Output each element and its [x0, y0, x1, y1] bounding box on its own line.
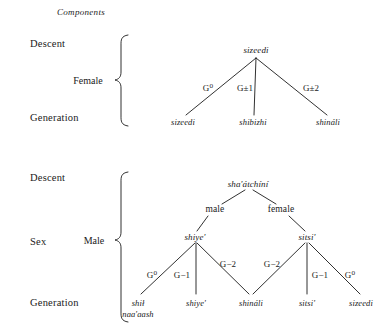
edge-label-female-g0: G⁰ [203, 84, 213, 93]
edge-m-shiye-leaf3 [197, 243, 249, 294]
edge-label-male-gminus2-right: G−2 [264, 260, 280, 269]
leaf-male-2: shiye' [186, 299, 206, 308]
edge-m-sitsi-leaf5 [309, 243, 360, 294]
edge-label-male-gminus2-left: G−2 [220, 260, 236, 269]
row-label-sex-bottom: Sex [30, 237, 46, 248]
edge-label-male-gminus1-right: G−1 [312, 271, 328, 280]
node-male-shiye: shiye' [184, 233, 205, 242]
figure-heading: Components [57, 8, 105, 17]
edge-m-female-sitsi [289, 216, 305, 231]
leaf-female-3: shináli [316, 118, 340, 127]
row-label-descent-top: Descent [30, 39, 65, 50]
edge-label-female-gpm2: G±2 [303, 84, 319, 93]
edge-label-male-g0-left: G⁰ [147, 271, 157, 280]
node-male-sex-male: male [206, 205, 225, 215]
edge-m-sitsi-leaf3 [253, 243, 305, 294]
leaf-male-4: sitsi' [299, 299, 315, 308]
edge-label-male-gminus1-left: G−1 [174, 271, 190, 280]
edge-f-root-leaf2 [254, 58, 256, 115]
leaf-male-3: shináli [239, 299, 263, 308]
leaf-male-1-line2: naa'aash [122, 309, 153, 320]
edge-m-shiye-leaf1 [141, 243, 195, 294]
node-male-sitsi: sitsi' [298, 233, 315, 242]
figure-canvas: Components Descent Generation Female siz… [0, 0, 384, 335]
row-label-generation-bottom: Generation [30, 298, 79, 309]
edge-label-female-gpm1: G±1 [237, 84, 253, 93]
row-label-descent-bottom: Descent [30, 173, 65, 184]
leaf-female-2: shibizhi [239, 118, 266, 127]
bracket-female [115, 35, 128, 126]
leaf-male-1-line1: shił [122, 298, 153, 309]
edge-label-male-g0-right: G⁰ [345, 271, 355, 280]
node-male-sex-female: female [268, 205, 294, 215]
node-female-root: sizeedi [243, 46, 268, 55]
diagram-lines-layer [0, 0, 384, 335]
bracket-label-male: Male [84, 236, 105, 246]
node-male-root: sha'átchíní [228, 180, 269, 189]
edge-m-male-shiye [197, 216, 208, 231]
edge-m-root-female [253, 190, 276, 204]
bracket-label-female: Female [73, 76, 102, 86]
leaf-female-1: sizeedi [171, 118, 195, 127]
edge-m-root-male [222, 190, 245, 204]
leaf-male-1: shił naa'aash [122, 298, 153, 319]
row-label-generation-top: Generation [30, 113, 79, 124]
leaf-male-5: sizeedi [349, 299, 373, 308]
